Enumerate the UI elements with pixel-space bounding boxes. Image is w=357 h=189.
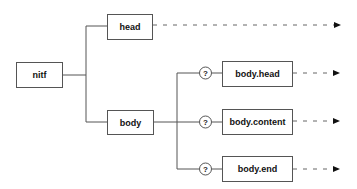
svg-text:body: body: [120, 118, 142, 128]
svg-text:body.end: body.end: [238, 164, 277, 174]
node-body-end: body.end: [223, 157, 293, 182]
optional-marker-body-end: ?: [200, 163, 212, 175]
svg-text:?: ?: [203, 165, 208, 174]
node-head: head: [108, 15, 153, 40]
svg-text:body.head: body.head: [235, 69, 279, 79]
arrow-body-content-icon: [333, 118, 340, 124]
optional-marker-body-content: ?: [200, 116, 212, 128]
nitf-structure-diagram: nitf head body ? ? ? body.head body.cont…: [0, 0, 357, 189]
node-body-content: body.content: [223, 110, 293, 135]
svg-text:?: ?: [203, 69, 208, 78]
svg-text:nitf: nitf: [33, 70, 48, 80]
connectors: [62, 26, 222, 169]
optional-marker-body-head: ?: [200, 67, 212, 79]
arrow-body-head-icon: [333, 70, 340, 76]
svg-text:head: head: [119, 22, 140, 32]
arrow-body-end-icon: [333, 166, 340, 172]
arrow-head-icon: [334, 22, 341, 28]
svg-text:body.content: body.content: [230, 117, 286, 127]
continuation-arrows: [153, 22, 341, 172]
node-nitf: nitf: [17, 63, 63, 88]
node-body: body: [108, 111, 154, 135]
node-body-head: body.head: [223, 62, 293, 87]
svg-text:?: ?: [203, 118, 208, 127]
